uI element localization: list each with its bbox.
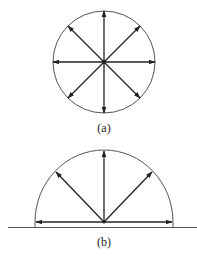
caption-b: (b) bbox=[97, 235, 111, 249]
radial-arrows bbox=[36, 151, 172, 222]
arrow-45deg bbox=[104, 172, 152, 222]
diagram-canvas: (a) (b) bbox=[0, 0, 197, 256]
center-point bbox=[102, 220, 105, 223]
arrow-45deg bbox=[104, 26, 140, 62]
figure-b-hemisphere: (b) bbox=[8, 150, 197, 249]
center-point bbox=[102, 60, 106, 64]
arrow-225deg bbox=[68, 62, 104, 98]
arrow-135deg bbox=[68, 26, 104, 62]
caption-a: (a) bbox=[97, 121, 110, 135]
figure-a-isotropic-circle: (a) bbox=[53, 11, 155, 135]
arrow-135deg bbox=[56, 172, 104, 222]
arrow-315deg bbox=[104, 62, 140, 98]
